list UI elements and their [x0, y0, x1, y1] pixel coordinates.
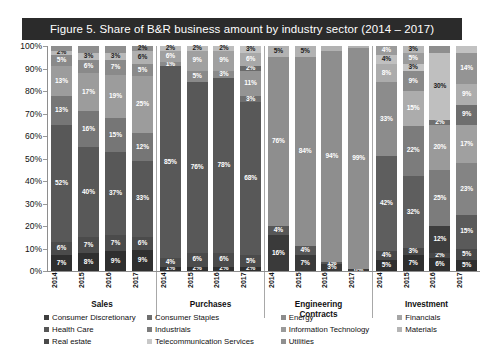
bar-segment[interactable]: 2% [429, 120, 450, 125]
bar-segment[interactable]: 5% [132, 64, 153, 75]
bar-segment[interactable]: 42% [376, 156, 397, 251]
bar-segment[interactable]: 15% [105, 118, 126, 152]
bar-segment[interactable]: 5% [268, 46, 289, 57]
bar-segment[interactable]: 4% [160, 258, 181, 267]
bar-segment[interactable]: 40% [78, 147, 99, 237]
bar-segment[interactable]: 17% [456, 125, 477, 163]
bar-segment[interactable]: 3% [105, 53, 126, 60]
bar-segment[interactable]: 76% [187, 82, 208, 253]
bar-segment[interactable]: 7% [105, 235, 126, 251]
bar-segment[interactable]: 8% [78, 253, 99, 271]
stacked-bar-column[interactable]: 7%6%52%13%13%5%2% [51, 46, 72, 271]
bar-segment[interactable]: 11% [240, 71, 261, 96]
bar-segment[interactable]: 19% [105, 75, 126, 118]
bar-segment[interactable]: 94% [321, 51, 342, 263]
bar-segment[interactable] [456, 46, 477, 53]
bar-segment[interactable]: 9% [456, 105, 477, 125]
stacked-bar-column[interactable]: 6%2%12%25%20%2%30% [429, 46, 450, 271]
legend-item[interactable]: Information Technology [281, 324, 397, 335]
stacked-bar-column[interactable]: 1%4%85%1%6%2% [160, 46, 181, 271]
bar-segment[interactable]: 33% [132, 161, 153, 237]
stacked-bar-column[interactable]: 9%7%37%15%19%7%3% [105, 46, 126, 271]
bar-segment[interactable]: 3% [78, 53, 99, 60]
bar-segment[interactable]: 3% [403, 64, 424, 71]
bar-segment[interactable]: 23% [456, 163, 477, 215]
bar-segment[interactable]: 99% [348, 48, 369, 269]
bar-segment[interactable]: 6% [132, 237, 153, 251]
bar-segment[interactable]: 13% [51, 66, 72, 95]
stacked-bar-column[interactable]: 2%6%76%5%9%2% [187, 46, 208, 271]
bar-segment[interactable]: 12% [132, 133, 153, 161]
bar-segment[interactable]: 6% [187, 253, 208, 267]
bar-segment[interactable]: 5% [295, 46, 316, 57]
bar-segment[interactable]: 6% [160, 51, 181, 62]
stacked-bar-column[interactable]: 8%7%40%16%17%6%3% [78, 46, 99, 271]
bar-segment[interactable]: 68% [240, 102, 261, 255]
bar-segment[interactable]: 16% [78, 111, 99, 147]
bar-segment[interactable]: 3% [240, 46, 261, 53]
bar-segment[interactable]: 2% [160, 46, 181, 51]
stacked-bar-column[interactable]: 16%4%76%5% [268, 46, 289, 271]
legend-item[interactable]: Industrials [147, 324, 281, 335]
bar-segment[interactable]: 6% [240, 53, 261, 67]
legend-item[interactable]: Materials [397, 324, 464, 335]
bar-segment[interactable] [429, 46, 450, 53]
bar-segment[interactable]: 3% [403, 46, 424, 53]
bar-segment[interactable]: 5% [376, 260, 397, 271]
stacked-bar-column[interactable]: 2%6%78%3%9%2% [213, 46, 234, 271]
legend-item[interactable]: Telecommunication Services [147, 336, 281, 347]
bar-segment[interactable]: 25% [132, 76, 153, 133]
bar-segment[interactable]: 9% [187, 51, 208, 71]
bar-segment[interactable]: 15% [456, 215, 477, 249]
stacked-bar-column[interactable]: 9%6%33%12%25%5%6%2% [132, 46, 153, 271]
bar-segment[interactable]: 4% [376, 55, 397, 64]
bar-segment[interactable]: 7% [295, 255, 316, 271]
stacked-bar-column[interactable]: 7%3%32%22%15%9%3%5%3% [403, 46, 424, 271]
legend-item[interactable]: Financials [397, 312, 464, 323]
bar-segment[interactable]: 3% [240, 96, 261, 103]
bar-segment[interactable]: 4% [295, 246, 316, 255]
bar-segment[interactable]: 85% [160, 66, 181, 257]
bar-segment[interactable] [321, 46, 342, 51]
bar-segment[interactable]: 7% [78, 237, 99, 253]
bar-segment[interactable]: 13% [51, 96, 72, 125]
stacked-bar-column[interactable]: 3%1%94% [321, 46, 342, 271]
bar-segment[interactable]: 2% [187, 46, 208, 51]
bar-segment[interactable]: 9% [132, 250, 153, 271]
bar-segment[interactable]: 32% [403, 176, 424, 249]
bar-segment[interactable]: 8% [376, 64, 397, 82]
bar-segment[interactable]: 6% [78, 60, 99, 74]
bar-segment[interactable]: 4% [376, 251, 397, 260]
stacked-bar-column[interactable]: 7%4%84%5% [295, 46, 316, 271]
bar-segment[interactable]: 30% [429, 53, 450, 121]
bar-segment[interactable]: 7% [105, 60, 126, 76]
stacked-bar-column[interactable]: 0%99% [348, 46, 369, 271]
bar-segment[interactable]: 33% [376, 82, 397, 156]
bar-segment[interactable]: 1% [160, 62, 181, 67]
bar-segment[interactable]: 2% [240, 66, 261, 71]
stacked-bar-column[interactable]: 5%5%15%23%17%9%9%14% [456, 46, 477, 271]
bar-segment[interactable]: 9% [213, 51, 234, 71]
legend-item[interactable]: Health Care [44, 324, 147, 335]
bar-segment[interactable]: 7% [403, 255, 424, 271]
bar-segment[interactable]: 78% [213, 78, 234, 254]
bar-segment[interactable]: 2% [132, 46, 153, 51]
bar-segment[interactable]: 6% [132, 51, 153, 65]
bar-segment[interactable]: 4% [376, 46, 397, 55]
bar-segment[interactable]: 20% [429, 125, 450, 170]
bar-segment[interactable]: 25% [429, 170, 450, 226]
bar-segment[interactable]: 6% [51, 242, 72, 256]
bar-segment[interactable]: 4% [268, 226, 289, 235]
bar-segment[interactable]: 12% [429, 226, 450, 253]
bar-segment[interactable] [78, 46, 99, 53]
bar-segment[interactable]: 2% [429, 253, 450, 258]
legend-item[interactable]: Consumer Staples [147, 312, 281, 323]
bar-segment[interactable]: 5% [51, 55, 72, 66]
legend-item[interactable]: Consumer Discretionary [44, 312, 147, 323]
bar-segment[interactable]: 6% [213, 253, 234, 267]
bar-segment[interactable]: 84% [295, 57, 316, 246]
stacked-bar-column[interactable]: 2%5%68%3%11%2%6%3% [240, 46, 261, 271]
bar-segment[interactable]: 76% [268, 57, 289, 226]
bar-segment[interactable]: 2% [51, 51, 72, 56]
legend-item[interactable]: Utilities [281, 336, 397, 347]
